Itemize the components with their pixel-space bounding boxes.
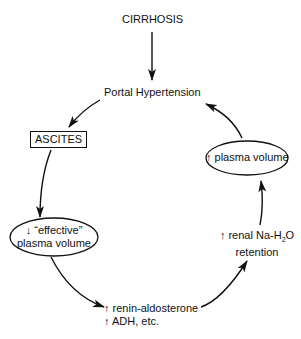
node-renin-adh: ↑ renin-aldosterone ↑ ADH, etc. bbox=[104, 302, 198, 328]
renal-prefix: ↑ renal Na-H bbox=[220, 229, 282, 241]
node-cirrhosis: CIRRHOSIS bbox=[122, 13, 183, 26]
node-renal-retention: ↑ renal Na-H2O retention bbox=[214, 229, 300, 259]
node-effective-plasma-volume: ↓ “effective” plasma volume bbox=[14, 224, 94, 250]
arrow-ascites-to-effective bbox=[40, 150, 51, 217]
node-portal-hypertension: Portal Hypertension bbox=[104, 86, 201, 99]
renin-line2: ↑ ADH, etc. bbox=[104, 315, 198, 328]
arrow-renin-to-renal bbox=[201, 261, 247, 307]
effective-line1: ↓ “effective” bbox=[14, 224, 94, 237]
portal-hypertension-label: Portal Hypertension bbox=[104, 86, 201, 98]
renin-line1: ↑ renin-aldosterone bbox=[104, 302, 198, 315]
cirrhosis-label: CIRRHOSIS bbox=[122, 13, 183, 25]
node-plasma-volume-up: ↑ plasma volume bbox=[206, 151, 288, 164]
arrow-plasma-to-portal bbox=[206, 104, 242, 138]
diagram-canvas bbox=[0, 0, 301, 339]
renal-line2: retention bbox=[214, 246, 300, 259]
effective-line2: plasma volume bbox=[14, 237, 94, 250]
renal-line1: ↑ renal Na-H2O bbox=[214, 229, 300, 246]
plasma-volume-up-label: ↑ plasma volume bbox=[206, 151, 289, 163]
ascites-label: ASCITES bbox=[35, 133, 82, 145]
node-ascites: ASCITES bbox=[30, 131, 87, 148]
renal-suffix: O bbox=[286, 229, 295, 241]
arrow-effective-to-renin bbox=[51, 257, 104, 307]
arrow-renal-to-plasma bbox=[260, 181, 262, 225]
arrow-portal-to-ascites bbox=[69, 100, 100, 127]
